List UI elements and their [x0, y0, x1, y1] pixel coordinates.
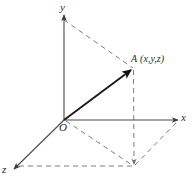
axis-z	[14, 120, 64, 169]
dashed-point-to-xz-projection	[134, 70, 135, 164]
figure-canvas	[0, 0, 195, 185]
axis-label-x: x	[181, 112, 186, 123]
point-a-label: A(x,y,z)	[131, 54, 164, 64]
dashed-xz-projection-to-x-axis	[135, 122, 177, 165]
vector-origin-to-point-a	[64, 70, 131, 120]
dashed-y-to-point	[64, 20, 133, 68]
point-a-coordinates: (x,y,z)	[140, 53, 164, 64]
coordinate-figure: y x z O A(x,y,z)	[0, 0, 195, 185]
axis-label-y: y	[60, 2, 65, 13]
point-a-name: A	[131, 53, 137, 64]
dashed-origin-to-xz-projection	[66, 121, 132, 165]
axis-label-z: z	[2, 164, 6, 175]
origin-label: O	[59, 122, 67, 133]
